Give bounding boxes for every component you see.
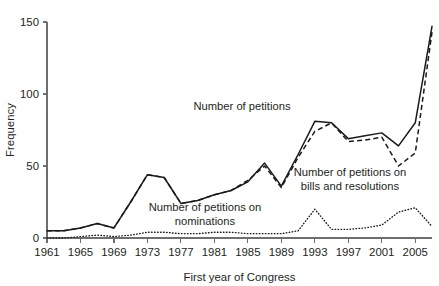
y-tick-label: 0: [33, 232, 39, 244]
x-tick-label: 1965: [68, 246, 93, 258]
x-tick-label: 1977: [168, 246, 193, 258]
x-tick-label: 2001: [369, 246, 394, 258]
y-tick-label: 150: [20, 16, 39, 28]
y-tick-label: 100: [20, 88, 39, 100]
frequency-line-chart: 050100150 196119651969197319771981198519…: [0, 0, 439, 286]
x-tick-label: 1985: [235, 246, 260, 258]
annotation-bills-and-resolutions-line2: bills and resolutions: [301, 180, 400, 192]
annotation-nominations-line2: nominations: [175, 215, 236, 227]
x-tick-label: 1973: [135, 246, 160, 258]
x-tick-label: 1969: [101, 246, 126, 258]
x-tick-label: 2005: [403, 246, 428, 258]
chart-container: 050100150 196119651969197319771981198519…: [0, 0, 439, 286]
annotation-number-of-petitions: Number of petitions: [193, 100, 290, 112]
y-tick-label: 50: [26, 160, 39, 172]
x-tick-label: 1993: [302, 246, 327, 258]
x-axis-title: First year of Congress: [183, 271, 295, 283]
x-axis-ticks: 1961196519691973197719811985198919931997…: [34, 238, 428, 258]
y-axis-ticks: 050100150: [20, 16, 47, 244]
annotation-bills-and-resolutions-line1: Number of petitions on: [294, 166, 407, 178]
x-tick-label: 1989: [269, 246, 294, 258]
x-tick-label: 1997: [336, 246, 361, 258]
annotation-nominations-line1: Number of petitions on: [149, 201, 262, 213]
chart-annotations-group: Number of petitions Number of petitions …: [149, 100, 407, 227]
y-axis-title: Frequency: [4, 103, 16, 157]
x-tick-label: 1961: [34, 246, 59, 258]
x-tick-label: 1981: [202, 246, 227, 258]
